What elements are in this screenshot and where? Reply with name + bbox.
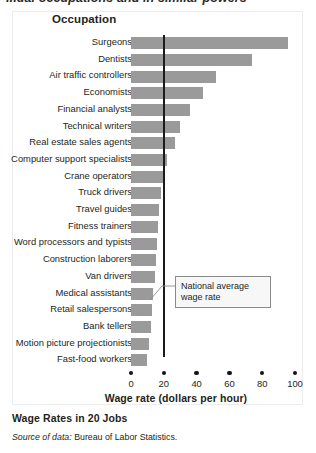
bar [131, 154, 167, 166]
bar-chart-plot-area: SurgeonsDentistsAir traffic controllersE… [0, 0, 316, 405]
bar [131, 104, 190, 116]
bar-category-label: Fitness trainers [68, 220, 132, 232]
figure-source-text: Bureau of Labor Statistics. [74, 432, 177, 442]
bar-row: Financial analysts [0, 102, 316, 119]
bar-category-label: Surgeons [92, 36, 132, 48]
x-axis-tick-label: 20 [149, 378, 179, 389]
x-axis-tick [293, 371, 297, 375]
x-axis-tick-label: 80 [247, 378, 277, 389]
bar-row: Construction laborers [0, 252, 316, 269]
bar-category-label: Medical assistants [55, 287, 132, 299]
bar-row: Fast-food workers [0, 352, 316, 369]
bar [131, 187, 161, 199]
bar-row: Word processors and typists [0, 235, 316, 252]
bar-category-label: Computer support specialists [11, 153, 132, 165]
bar-row: Truck drivers [0, 185, 316, 202]
bar [131, 121, 180, 133]
x-axis-title: Wage rate (dollars per hour) [0, 392, 316, 404]
figure-caption: Wage Rates in 20 Jobs Source of data: Bu… [12, 412, 303, 442]
x-axis-tick [260, 371, 264, 375]
bar-category-label: Technical writers [63, 120, 132, 132]
bar-row: Surgeons [0, 35, 316, 52]
bar [131, 254, 156, 266]
x-axis-tick-label: 60 [214, 378, 244, 389]
bar [131, 238, 157, 250]
bar-category-label: Truck drivers [78, 186, 132, 198]
bar [131, 321, 151, 333]
bar-category-label: Construction laborers [43, 253, 132, 265]
bar [131, 354, 147, 366]
bar [131, 221, 158, 233]
x-axis-tick [227, 371, 231, 375]
bar-category-label: Dentists [98, 53, 132, 65]
x-axis-tick-label: 100 [280, 378, 310, 389]
bar-category-label: Air traffic controllers [49, 69, 132, 81]
bar-row: Economists [0, 85, 316, 102]
bar [131, 137, 175, 149]
bar-row: Crane operators [0, 169, 316, 186]
bar [131, 338, 149, 350]
bar-category-label: Retail salespersons [50, 303, 132, 315]
bar-row: Air traffic controllers [0, 68, 316, 85]
bar-category-label: Motion picture projectionists [16, 337, 132, 349]
bar-row: Fitness trainers [0, 219, 316, 236]
x-axis-tick-label: 0 [116, 378, 146, 389]
bar-category-label: Word processors and typists [14, 236, 132, 248]
bar-row: Bank tellers [0, 319, 316, 336]
bar-category-label: Crane operators [64, 170, 132, 182]
bar-row: Travel guides [0, 202, 316, 219]
bar [131, 204, 159, 216]
bar [131, 171, 164, 183]
bar-category-label: Financial analysts [57, 103, 132, 115]
figure-source-prefix: Source of data: [12, 432, 72, 442]
x-axis-tick [194, 371, 198, 375]
national-average-reference-line [163, 35, 165, 357]
bar-category-label: Van drivers [85, 270, 132, 282]
national-average-annotation: National average wage rate [175, 276, 271, 308]
bar [131, 37, 288, 49]
x-axis-tick-label: 40 [182, 378, 212, 389]
figure-source-note: Source of data: Bureau of Labor Statisti… [12, 432, 303, 442]
bar-category-label: Travel guides [76, 203, 132, 215]
bar-row: Motion picture projectionists [0, 336, 316, 353]
bar-category-label: Real estate sales agents [29, 136, 132, 148]
bar-row: Computer support specialists [0, 152, 316, 169]
bar-category-label: Bank tellers [83, 320, 132, 332]
bar-category-label: Fast-food workers [57, 353, 132, 365]
bar [131, 71, 216, 83]
x-axis-tick [129, 371, 133, 375]
bar-row: Technical writers [0, 119, 316, 136]
bar-category-label: Economists [84, 86, 132, 98]
bar [131, 54, 252, 66]
x-axis: 020406080100 Wage rate (dollars per hour… [0, 371, 316, 405]
x-axis-tick [162, 371, 166, 375]
bar [131, 87, 203, 99]
bar [131, 304, 152, 316]
bar-row: Dentists [0, 52, 316, 69]
figure-caption-title: Wage Rates in 20 Jobs [12, 412, 303, 424]
bar-row: Real estate sales agents [0, 135, 316, 152]
